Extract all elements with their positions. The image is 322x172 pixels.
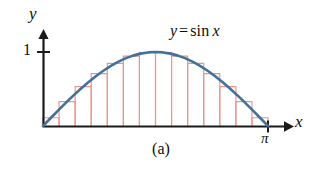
midpoint-rectangle xyxy=(59,102,75,126)
y-tick-label-one: 1 xyxy=(23,42,31,58)
equation-sin-function: sin xyxy=(190,22,209,39)
y-axis-label: y xyxy=(29,5,37,22)
equation-equals-sign: = xyxy=(177,22,190,39)
midpoint-rectangle xyxy=(172,56,188,126)
midpoint-rectangle xyxy=(91,74,107,126)
midpoint-rectangles-group xyxy=(43,52,268,126)
x-axis-arrowhead xyxy=(284,121,294,132)
curve-equation-label: y=sinx xyxy=(170,23,220,39)
figure-caption: (a) xyxy=(0,140,322,158)
midpoint-rectangle xyxy=(107,63,123,126)
figure-container: y x 1 π y=sinx (a) xyxy=(0,0,322,172)
midpoint-rectangle xyxy=(204,74,220,126)
midpoint-rectangle xyxy=(236,102,252,126)
midpoint-rectangle xyxy=(156,52,172,126)
midpoint-rectangle xyxy=(123,56,139,126)
x-axis-label: x xyxy=(295,113,303,130)
midpoint-rectangle xyxy=(188,63,204,126)
equation-variable: x xyxy=(209,22,219,39)
midpoint-rectangle xyxy=(139,52,155,126)
y-axis-arrowhead xyxy=(38,29,48,39)
